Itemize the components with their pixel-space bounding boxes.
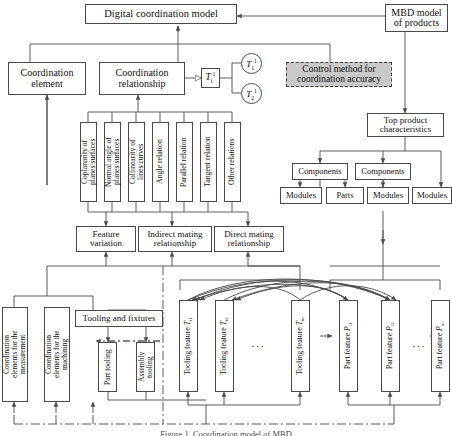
tensor-label: T21	[246, 89, 257, 99]
node-top-product-characteristics[interactable]: Top product characteristics	[367, 113, 444, 137]
tooling-features-ellipsis: ···	[251, 340, 265, 352]
relation-angle[interactable]: Angle relation	[152, 122, 169, 202]
node-tooling-feature-tn[interactable]: Tooling feature Ttn	[291, 300, 310, 392]
node-coordination-elements-measurement[interactable]: Coordination elements for the measuremen…	[2, 307, 28, 402]
tensor-label: Ti1	[206, 73, 216, 83]
node-label: Coordination element	[21, 68, 74, 88]
node-part-feature-p2[interactable]: Part feature Pi2	[381, 300, 400, 392]
node-components-2[interactable]: Components	[355, 163, 411, 180]
node-components-1[interactable]: Components	[292, 163, 348, 180]
relation-coplanarity[interactable]: Coplanarity of planes/surfaces	[80, 122, 97, 202]
node-modules-2[interactable]: Modules	[367, 187, 409, 204]
tensor-source-ti1[interactable]: Ti1	[201, 68, 220, 88]
relation-other[interactable]: Other relations	[224, 122, 241, 202]
node-indirect-mating-relationship[interactable]: Indirect mating relationship	[138, 226, 212, 252]
figure-canvas: Digital coordination model MBD model of …	[0, 0, 452, 436]
node-tooling-and-fixtures[interactable]: Tooling and fixtures	[75, 310, 163, 327]
node-coordination-element[interactable]: Coordination element	[8, 62, 86, 95]
node-part-feature-p1[interactable]: Part feature Pi1	[339, 300, 358, 392]
relation-tangent[interactable]: Tangent relation	[200, 122, 217, 202]
relation-normal-angle[interactable]: Normal angle of planes/surfaces	[104, 122, 121, 202]
node-label: Coordination relationship	[116, 68, 169, 88]
node-assembly-tooling[interactable]: Assembly tooling	[136, 342, 155, 392]
node-coordination-elements-machining[interactable]: Coordination elements for the machining	[44, 307, 70, 402]
relation-collinearity[interactable]: Collinearity of lines/curves	[128, 122, 145, 202]
node-modules-1[interactable]: Modules	[280, 187, 322, 204]
node-tooling-feature-t1[interactable]: Tooling feature Tt1	[179, 300, 198, 392]
node-part-feature-pn[interactable]: Part feature Pin	[431, 300, 450, 392]
node-tooling-feature-t2[interactable]: Tooling feature Tt2	[215, 300, 234, 392]
node-label: Control method for coordination accuracy	[297, 65, 381, 84]
node-direct-mating-relationship[interactable]: Direct mating relationship	[214, 226, 284, 252]
node-label: Digital coordination model	[104, 9, 218, 20]
tensor-branch-t11[interactable]: T11	[241, 53, 262, 74]
node-parts[interactable]: Parts	[326, 187, 364, 204]
node-control-method[interactable]: Control method for coordination accuracy	[286, 62, 392, 87]
node-digital-coordination-model[interactable]: Digital coordination model	[85, 4, 237, 24]
part-features-ellipsis: ···	[412, 340, 426, 352]
node-modules-3[interactable]: Modules	[412, 187, 452, 204]
node-coordination-relationship[interactable]: Coordination relationship	[99, 62, 185, 95]
node-feature-variation[interactable]: Feature variation	[76, 226, 136, 252]
node-label: MBD model of products	[391, 8, 441, 28]
tensor-label: T11	[246, 59, 257, 69]
tensor-branch-t21[interactable]: T21	[241, 83, 262, 104]
relation-parallel[interactable]: Parallel relation	[176, 122, 193, 202]
figure-caption: Figure 1. Coordination model of MBD	[0, 429, 452, 436]
node-part-tooling[interactable]: Part tooling	[98, 342, 117, 392]
node-mbd-model[interactable]: MBD model of products	[385, 4, 448, 32]
